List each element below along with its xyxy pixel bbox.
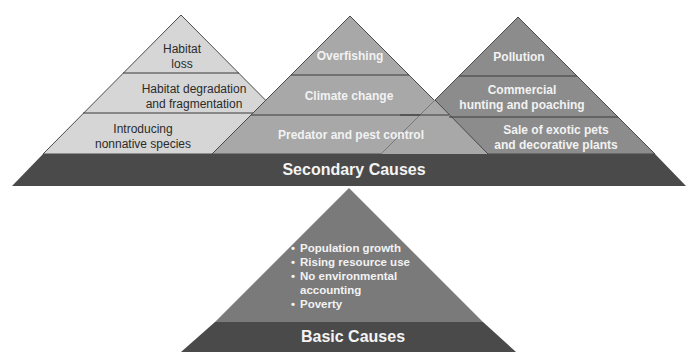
label-habitat-degradation: Habitat degradation and fragmentation <box>142 82 247 112</box>
label-predator-pest-control: Predator and pest control <box>278 128 424 143</box>
label-line: hunting and poaching <box>459 98 584 113</box>
item-text: Rising resource use <box>300 256 410 268</box>
item-text: Poverty <box>300 298 342 310</box>
label-line: nonnative species <box>95 137 191 152</box>
basic-cause-item: No environmentalaccounting <box>291 269 410 297</box>
label-overfishing: Overfishing <box>317 49 384 64</box>
basic-causes-label: Basic Causes <box>301 328 405 346</box>
label-line: Pollution <box>493 50 544 65</box>
label-line: Overfishing <box>317 49 384 64</box>
basic-cause-item: Rising resource use <box>291 255 410 269</box>
label-line: Introducing <box>95 122 191 137</box>
secondary-causes-label: Secondary Causes <box>282 161 425 179</box>
label-introducing-nonnative-species: Introducing nonnative species <box>95 122 191 152</box>
basic-cause-item: Population growth <box>291 241 410 255</box>
label-commercial-hunting-poaching: Commercial hunting and poaching <box>459 83 584 113</box>
item-text: Population growth <box>300 242 401 254</box>
item-text: accounting <box>300 283 410 297</box>
label-line: Climate change <box>305 89 394 104</box>
label-line: Sale of exotic pets <box>494 123 617 138</box>
label-line: loss <box>163 57 201 72</box>
label-climate-change: Climate change <box>305 89 394 104</box>
label-line: Predator and pest control <box>278 128 424 143</box>
basic-causes-list: Population growth Rising resource use No… <box>291 241 410 311</box>
basic-cause-item: Poverty <box>291 297 410 311</box>
item-text: No environmental <box>300 269 410 283</box>
label-line: Commercial <box>459 83 584 98</box>
label-habitat-loss: Habitat loss <box>163 42 201 72</box>
label-line: Habitat <box>163 42 201 57</box>
label-sale-exotic-pets: Sale of exotic pets and decorative plant… <box>494 123 617 153</box>
label-line: Habitat degradation <box>142 82 247 97</box>
label-line: and fragmentation <box>142 97 247 112</box>
label-line: and decorative plants <box>494 138 617 153</box>
label-pollution: Pollution <box>493 50 544 65</box>
